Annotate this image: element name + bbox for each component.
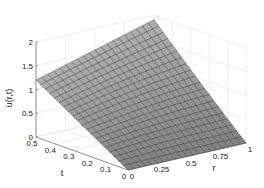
r-tick-label: 0.25 xyxy=(154,165,170,174)
t-tick-label: 0 xyxy=(122,172,127,181)
surface-mesh xyxy=(36,20,246,170)
t-tick-label: 0.3 xyxy=(63,152,75,161)
z-tick-label: 1.5 xyxy=(22,62,34,71)
z-tick-label: 0.5 xyxy=(22,109,34,118)
z-tick-label: 1 xyxy=(29,86,34,95)
z-tick-label: 2 xyxy=(29,38,34,47)
z-axis-label: u(r,t) xyxy=(4,89,14,108)
y-axis-label: t xyxy=(61,168,64,178)
r-tick-label: 0 xyxy=(130,172,135,181)
x-axis-label: r xyxy=(213,163,216,173)
t-tick-label: 0.1 xyxy=(100,165,112,174)
r-tick-label: 0.5 xyxy=(185,159,197,168)
t-tick-label: 0.2 xyxy=(82,159,94,168)
t-tick-label: 0.4 xyxy=(45,146,57,155)
r-tick-label: 1 xyxy=(248,145,253,154)
r-tick-label: 0.75 xyxy=(213,152,229,161)
t-tick-label: 0.5 xyxy=(26,139,38,148)
surface-plot: 00.511.5200.10.20.30.40.500.250.50.751 u… xyxy=(0,0,264,188)
